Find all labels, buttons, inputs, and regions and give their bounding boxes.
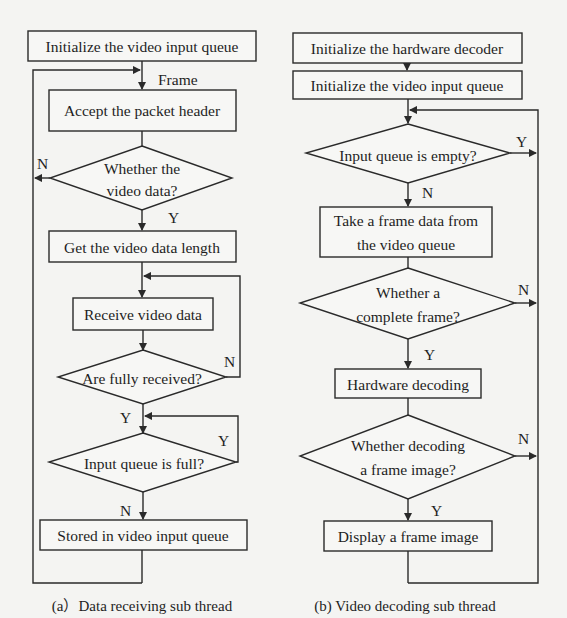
node-a-fully-received-label: Are fully received? [82, 370, 202, 387]
node-b-take-frame: Take a frame data from the video queue [320, 207, 492, 257]
label-a-full-yes: Y [218, 432, 229, 449]
node-b-decoded-label-1: Whether decoding [351, 437, 465, 454]
caption-panel-b: (b) Video decoding sub thread [314, 598, 496, 615]
node-a-is-video-decision: Whether the video data? [50, 146, 232, 210]
flowchart-canvas: Initialize the video input queue Frame A… [0, 0, 567, 618]
node-a-fully-received-decision: Are fully received? [58, 350, 226, 404]
node-b-queue-empty-decision: Input queue is empty? [306, 124, 510, 183]
node-a-accept-header: Accept the packet header [49, 90, 236, 131]
node-b-take-frame-label-2: the video queue [357, 236, 455, 253]
node-a-is-video-label-1: Whether the [104, 160, 180, 177]
label-b-decoded-yes: Y [431, 502, 442, 519]
panel-a-data-receiving: Initialize the video input queue Frame A… [28, 31, 256, 615]
node-a-queue-full-decision: Input queue is full? [49, 433, 236, 492]
label-b-complete-no: N [518, 281, 529, 298]
label-a-frame: Frame [158, 71, 198, 88]
label-b-complete-yes: Y [424, 346, 435, 363]
label-a-is-video-no: N [37, 155, 48, 172]
node-b-hw-decode-label: Hardware decoding [347, 376, 469, 393]
node-b-queue-empty-label: Input queue is empty? [339, 147, 476, 164]
node-b-decoded-label-2: a frame image? [360, 461, 456, 478]
label-a-fully-yes: Y [120, 409, 131, 426]
node-a-is-video-label-2: video data? [106, 182, 177, 199]
node-a-store: Stored in video input queue [40, 520, 247, 550]
node-a-accept-header-label: Accept the packet header [64, 102, 221, 119]
node-b-decoded-decision: Whether decoding a frame image? [300, 415, 515, 499]
node-b-display: Display a frame image [324, 521, 492, 551]
node-a-init-queue: Initialize the video input queue [28, 31, 256, 61]
node-b-init-queue-label: Initialize the video input queue [311, 77, 504, 94]
node-a-store-label: Stored in video input queue [57, 527, 228, 544]
node-a-receive-data-label: Receive video data [84, 306, 202, 323]
node-b-complete-label-1: Whether a [376, 284, 440, 301]
node-b-init-decoder: Initialize the hardware decoder [293, 33, 522, 63]
node-b-take-frame-label-1: Take a frame data from [334, 212, 478, 229]
node-b-display-label: Display a frame image [338, 528, 479, 545]
node-b-complete-frame-decision: Whether a complete frame? [300, 268, 515, 339]
node-b-hw-decode: Hardware decoding [335, 369, 481, 398]
label-b-empty-yes: Y [516, 133, 527, 150]
caption-panel-a: (a）Data receiving sub thread [52, 598, 233, 615]
label-a-full-no: N [120, 502, 131, 519]
node-a-queue-full-label: Input queue is full? [84, 455, 204, 472]
node-b-init-decoder-label: Initialize the hardware decoder [311, 40, 504, 57]
node-a-init-queue-label: Initialize the video input queue [46, 38, 239, 55]
node-a-get-length: Get the video data length [49, 231, 236, 262]
label-b-empty-no: N [422, 184, 433, 201]
node-b-init-queue: Initialize the video input queue [293, 71, 522, 99]
label-b-decoded-no: N [518, 430, 529, 447]
panel-b-video-decoding: Initialize the hardware decoder Initiali… [293, 33, 538, 615]
label-a-fully-no: N [224, 353, 235, 370]
node-b-complete-label-2: complete frame? [356, 308, 460, 325]
node-a-receive-data: Receive video data [73, 298, 213, 330]
node-a-get-length-label: Get the video data length [64, 239, 220, 256]
label-a-is-video-yes: Y [168, 209, 179, 226]
